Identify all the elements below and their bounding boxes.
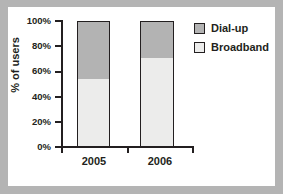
bar-2005-segment-dial-up	[78, 22, 109, 81]
legend-swatch-dial-up	[194, 23, 205, 34]
x-tick-label-2005: 2005	[64, 155, 124, 167]
chart-legend: Dial-up Broadband	[194, 22, 269, 60]
y-tick-80	[55, 45, 62, 47]
y-tick-60	[55, 71, 62, 73]
y-axis-line	[61, 20, 63, 148]
chart-panel: 100% 80% 60% 40% 20% 0% % of users 2005 …	[8, 7, 275, 186]
y-tick-100	[55, 20, 62, 22]
chart-figure: 100% 80% 60% 40% 20% 0% % of users 2005 …	[0, 0, 283, 194]
bar-2006-segment-dial-up	[141, 22, 173, 60]
y-tick-label-0: 0%	[7, 142, 51, 152]
legend-label-broadband: Broadband	[211, 41, 269, 53]
bar-2006-segment-broadband	[141, 58, 173, 146]
bar-2006[interactable]	[140, 21, 174, 147]
y-tick-label-20: 20%	[7, 117, 51, 127]
x-tick-right	[192, 148, 194, 153]
y-axis-title: % of users	[9, 20, 21, 110]
legend-item-broadband[interactable]: Broadband	[194, 41, 269, 53]
bar-2005[interactable]	[77, 21, 110, 147]
legend-swatch-broadband	[194, 42, 205, 53]
y-tick-20	[55, 121, 62, 123]
y-tick-40	[55, 96, 62, 98]
x-tick-label-2006: 2006	[130, 155, 190, 167]
x-tick-mid	[127, 148, 129, 153]
bar-2005-segment-broadband	[78, 79, 109, 146]
legend-item-dial-up[interactable]: Dial-up	[194, 22, 269, 34]
x-tick-left	[61, 148, 63, 153]
legend-label-dial-up: Dial-up	[211, 22, 248, 34]
